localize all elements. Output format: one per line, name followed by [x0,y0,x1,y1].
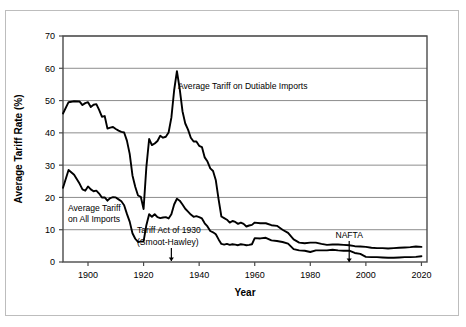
y-tick-label: 10 [45,225,55,235]
y-tick-label: 0 [50,257,55,267]
annotation-text: (Smoot-Hawley) [137,237,199,247]
annotation-text: on All Imports [68,214,120,224]
annotation-text: Average Tariff [68,203,121,213]
plot-border [63,36,427,262]
x-tick-label: 1900 [78,270,98,280]
y-tick-label: 40 [45,128,55,138]
x-tick-label: 1920 [134,270,154,280]
y-tick-label: 50 [45,96,55,106]
x-tick-label: 1980 [300,270,320,280]
y-tick-label: 20 [45,193,55,203]
x-tick-label: 2000 [356,270,376,280]
y-tick-label: 70 [45,31,55,41]
x-tick-label: 1960 [245,270,265,280]
annotation-text: Average Tariff on Dutiable Imports [178,81,307,91]
x-tick-label: 2020 [411,270,431,280]
plot-area-border [63,36,427,262]
x-tick-label: 1940 [189,270,209,280]
y-tick-label: 60 [45,64,55,74]
annotation-text: NAFTA [335,230,363,240]
annotation-arrow-head [169,258,174,261]
x-axis-ticks: 1900192019401960198020002020 [78,262,431,280]
y-tick-label: 30 [45,161,55,171]
annotation-text: Tariff Act of 1930 [137,225,201,235]
y-axis-ticks: 010203040506070 [45,31,63,267]
y-axis-title: Average Tariff Rate (%) [13,95,24,204]
tariff-rate-line-chart: 010203040506070 190019201940196019802000… [0,0,466,327]
x-axis-title: Year [234,287,255,298]
gridlines-group [63,36,427,230]
